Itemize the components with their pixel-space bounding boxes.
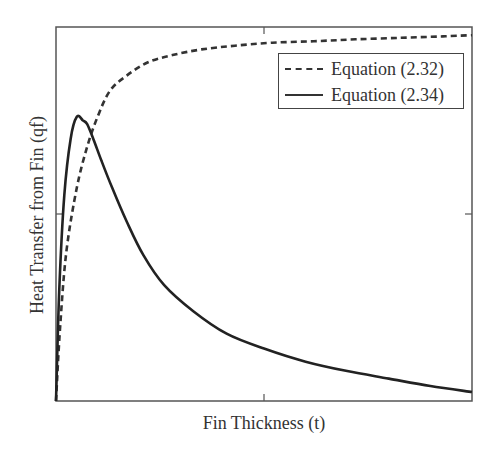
x-axis-label: Fin Thickness (t) bbox=[203, 413, 326, 434]
solid-line-swatch-icon bbox=[285, 94, 323, 96]
dashed-line-swatch-icon bbox=[285, 68, 323, 70]
legend-label: Equation (2.34) bbox=[331, 85, 444, 106]
legend-item-equation-2-32: Equation (2.32) bbox=[285, 57, 444, 81]
series-line-equation-2-34 bbox=[56, 116, 472, 401]
legend: Equation (2.32) Equation (2.34) bbox=[278, 53, 464, 109]
legend-label: Equation (2.32) bbox=[331, 59, 444, 80]
y-axis-label: Heat Transfer from Fin (qf) bbox=[27, 116, 48, 314]
legend-item-equation-2-34: Equation (2.34) bbox=[285, 83, 444, 107]
